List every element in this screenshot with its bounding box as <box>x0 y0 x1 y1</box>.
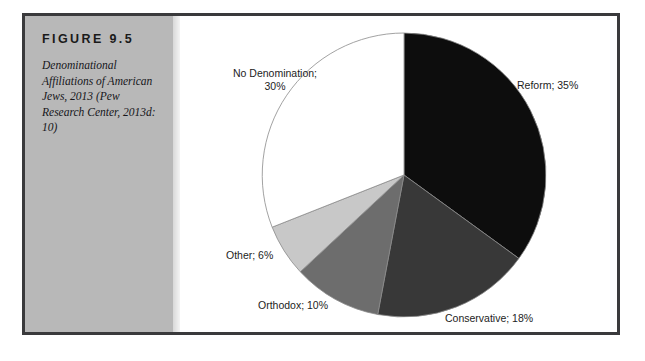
pie-label-orthodox: Orthodox; 10% <box>258 299 328 312</box>
figure-inner: FIGURE 9.5 Denominational Affiliations o… <box>25 16 617 332</box>
pie-label-no-denomination-line2: 30% <box>264 80 285 92</box>
pie-chart-area: Reform; 35% Conservative; 18% Orthodox; … <box>173 16 617 332</box>
figure-caption-text: Denominational Affiliations of American … <box>42 58 164 136</box>
figure-frame: FIGURE 9.5 Denominational Affiliations o… <box>22 13 620 335</box>
pie-label-reform: Reform; 35% <box>517 79 578 92</box>
pie-label-conservative: Conservative; 18% <box>445 312 533 325</box>
figure-number-label: FIGURE 9.5 <box>42 32 134 46</box>
pie-label-other: Other; 6% <box>226 249 273 262</box>
pie-label-no-denomination-line1: No Denomination; <box>233 67 317 79</box>
pie-chart-svg <box>173 16 617 332</box>
figure-caption-panel: FIGURE 9.5 Denominational Affiliations o… <box>25 16 173 332</box>
pie-label-no-denomination: No Denomination; 30% <box>217 67 333 93</box>
